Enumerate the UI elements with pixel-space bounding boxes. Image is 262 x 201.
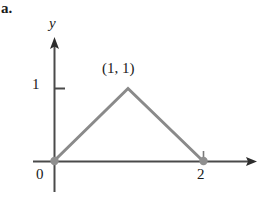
y-tick-label-1: 1 xyxy=(32,77,40,92)
x-tick-label-2: 2 xyxy=(197,167,205,182)
figure-panel: a. y 1 (1, 1) 0 2 xyxy=(0,0,262,201)
function-curve xyxy=(54,89,203,162)
peak-point-label: (1, 1) xyxy=(102,61,135,76)
point-marker-origin xyxy=(50,157,58,165)
point-marker-x2 xyxy=(199,157,207,165)
part-label: a. xyxy=(1,1,12,16)
y-axis-label: y xyxy=(49,16,56,31)
x-tick-label-0: 0 xyxy=(36,167,44,182)
